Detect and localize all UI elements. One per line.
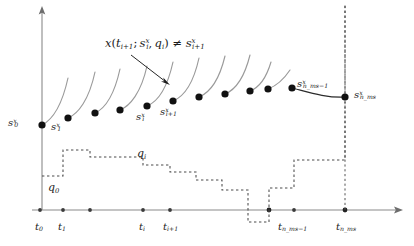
state-label-si1: sxi+1 (160, 107, 177, 117)
state-sub: i+1 (166, 110, 177, 117)
state-node-icon (221, 90, 228, 97)
tick-sub: i (143, 225, 145, 232)
annot-semicolon: ; (133, 36, 137, 50)
tick-mark (168, 208, 172, 212)
trajectory-arc (95, 69, 120, 113)
state-node-icon (143, 102, 150, 109)
tick-mark (292, 208, 296, 212)
tick-label-tnms-minus-1: tn_ms−1 (278, 222, 307, 232)
state-label-s0: sx0 (8, 118, 18, 128)
state-node-icon (169, 97, 176, 104)
trajectory-arc (68, 72, 95, 118)
state-sub: 0 (14, 121, 18, 128)
control-label-qi: qi (137, 148, 146, 159)
state-node-icon (264, 85, 271, 92)
trajectory-arc (268, 70, 290, 89)
trajectory-arc (147, 62, 173, 106)
tick-sub: n_ms−1 (282, 225, 307, 232)
trajectory-arc (199, 56, 225, 97)
axes-group (32, 6, 403, 213)
annot-t-sub: i+1 (121, 42, 134, 51)
control-base: q (48, 181, 55, 194)
state-node-icon (91, 109, 98, 116)
annotation-pointer-icon (131, 55, 170, 85)
control-base: q (137, 147, 144, 160)
tick-label-ti: ti (139, 222, 145, 232)
state-label-s1: sx1 (51, 122, 61, 132)
mismatch-annotation: x(ti+1; sxi, qi) ≠ sxi+1 (105, 38, 205, 50)
state-node-icon (246, 87, 253, 94)
trajectory-arc (173, 58, 199, 101)
state-label-snms: sxn_ms (354, 90, 376, 100)
control-sub: 0 (55, 187, 59, 195)
state-sub: n_ms−1 (303, 82, 328, 89)
annot-comma: , (149, 36, 153, 50)
figure-canvas (0, 0, 414, 246)
annot-neq-symbol: ≠ (172, 36, 182, 50)
terminal-trajectory-arc (292, 88, 345, 97)
state-node-icon (116, 106, 123, 113)
state-sub: n_ms (360, 93, 376, 100)
annot-q: q (155, 36, 162, 50)
state-sub: 1 (57, 125, 61, 132)
state-node-icon (195, 93, 202, 100)
tick-label-t1: t1 (58, 222, 66, 232)
trajectory-arc (120, 66, 147, 110)
state-node-icon (64, 114, 71, 121)
tick-label-tnms: tn_ms (336, 222, 356, 232)
tick-sub: n_ms (340, 225, 356, 232)
state-node-icon (38, 121, 45, 128)
tick-sub: i+1 (167, 225, 178, 232)
state-node-icon (341, 93, 348, 100)
tick-label-t0: t0 (35, 222, 43, 232)
control-label-q0: q0 (48, 182, 59, 193)
state-sub: i (142, 115, 144, 122)
annot-close-paren: ) (164, 36, 169, 50)
tick-mark (88, 208, 92, 212)
tick-mark (38, 208, 42, 212)
state-node-icon (288, 84, 295, 91)
control-sub: i (144, 153, 146, 161)
trajectory-arc (225, 55, 250, 94)
tick-mark (61, 208, 65, 212)
trajectory-arc (42, 78, 68, 125)
tick-label-ti1: ti+1 (163, 222, 178, 232)
state-label-si: sxi (136, 112, 144, 122)
annot-s2-sub: i+1 (192, 42, 205, 51)
tick-mark (141, 208, 145, 212)
state-label-snms-minus-1: sxn_ms−1 (297, 79, 328, 89)
tick-sub: 0 (39, 225, 43, 232)
tick-sub: 1 (62, 225, 66, 232)
multiple-shooting-figure: x(ti+1; sxi, qi) ≠ sxi+1 sx0 sx1 sxi sxi… (0, 0, 414, 246)
